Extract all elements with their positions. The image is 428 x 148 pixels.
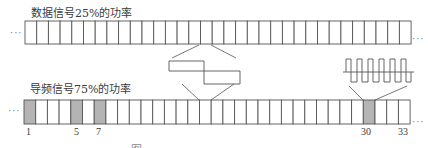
high-frequency-waveform — [343, 59, 414, 82]
cell-23 — [281, 100, 293, 124]
cell-19 — [235, 100, 247, 124]
connector-lines-high-frequency — [349, 86, 407, 100]
cell-3 — [48, 21, 60, 44]
cell-10 — [129, 100, 141, 124]
cell-15 — [189, 21, 201, 44]
cell-16 — [201, 21, 213, 44]
cell-9 — [119, 21, 131, 44]
highlighted-cell-30 — [363, 100, 375, 124]
highlighted-cell-7 — [94, 100, 106, 124]
cell-6 — [83, 100, 95, 124]
cell-2 — [36, 100, 48, 124]
cell-33 — [398, 100, 410, 124]
cell-31 — [376, 21, 388, 44]
cell-29 — [352, 100, 364, 124]
cell-3 — [47, 100, 59, 124]
cell-21 — [258, 100, 270, 124]
cell-25 — [305, 100, 317, 124]
cell-11 — [141, 100, 153, 124]
cell-12 — [154, 21, 166, 44]
cell-2 — [37, 21, 49, 44]
cell-13 — [164, 100, 176, 124]
cell-9 — [118, 100, 130, 124]
cell-30 — [364, 21, 376, 44]
cell-1 — [25, 21, 37, 44]
data-signal-row — [25, 21, 411, 44]
cell-32 — [388, 21, 400, 44]
cell-12 — [153, 100, 165, 124]
pilot-signal-row — [24, 100, 410, 124]
cell-32 — [387, 100, 399, 124]
diagram-canvas — [0, 0, 428, 148]
cell-27 — [329, 21, 341, 44]
cell-28 — [341, 21, 353, 44]
cell-17 — [212, 21, 224, 44]
cell-11 — [142, 21, 154, 44]
cell-20 — [246, 100, 258, 124]
cell-17 — [211, 100, 223, 124]
cell-31 — [375, 100, 387, 124]
cell-13 — [165, 21, 177, 44]
cell-16 — [200, 100, 212, 124]
cell-8 — [107, 21, 119, 44]
cell-19 — [236, 21, 248, 44]
cell-4 — [59, 100, 71, 124]
cell-23 — [282, 21, 294, 44]
cell-18 — [223, 100, 235, 124]
cell-27 — [328, 100, 340, 124]
cell-33 — [399, 21, 411, 44]
cell-29 — [353, 21, 365, 44]
low-frequency-waveform — [169, 61, 240, 84]
cell-26 — [318, 21, 330, 44]
cell-15 — [188, 100, 200, 124]
cell-7 — [95, 21, 107, 44]
cell-22 — [271, 21, 283, 44]
cell-18 — [224, 21, 236, 44]
cell-28 — [340, 100, 352, 124]
cell-5 — [72, 21, 84, 44]
highlighted-cell-5 — [71, 100, 83, 124]
cell-21 — [259, 21, 271, 44]
cell-20 — [247, 21, 259, 44]
cell-6 — [84, 21, 96, 44]
cell-24 — [293, 100, 305, 124]
cell-22 — [270, 100, 282, 124]
cell-8 — [106, 100, 118, 124]
cell-10 — [130, 21, 142, 44]
cell-4 — [60, 21, 72, 44]
cell-14 — [176, 100, 188, 124]
cell-24 — [294, 21, 306, 44]
cell-26 — [317, 100, 329, 124]
highlighted-cell-1 — [24, 100, 36, 124]
cell-14 — [177, 21, 189, 44]
cell-25 — [306, 21, 318, 44]
